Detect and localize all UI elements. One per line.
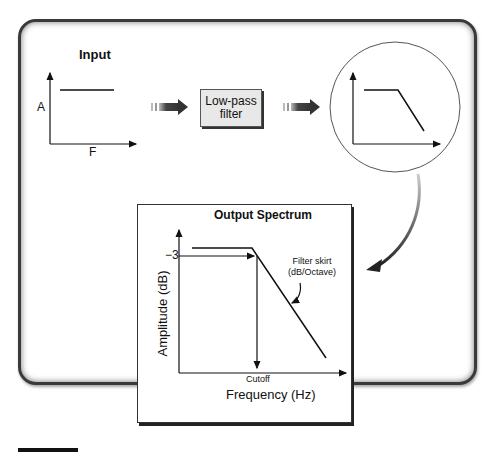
- diagram-graphics: [0, 0, 501, 455]
- spectrum-axes: [179, 230, 346, 373]
- input-axes: [50, 73, 136, 144]
- arrow-to-output-icon: [283, 99, 320, 115]
- curved-arrow-icon: [366, 174, 419, 272]
- bottom-rule: [18, 448, 78, 452]
- arrow-to-filter-icon: [151, 99, 188, 115]
- output-magnifier-circle: [330, 42, 460, 172]
